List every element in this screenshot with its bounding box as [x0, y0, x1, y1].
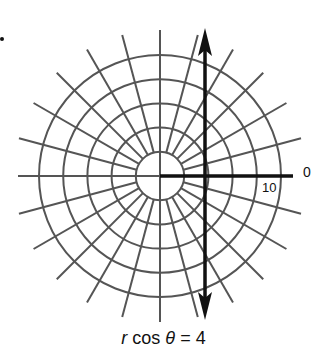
- grid-radial-line: [177, 193, 263, 279]
- grid-radial-line: [166, 35, 198, 153]
- grid-radial-line: [183, 138, 301, 170]
- caption-rest: = 4: [175, 328, 206, 348]
- grid-radial-line: [57, 193, 143, 279]
- radius-ten-label: 10: [262, 180, 276, 195]
- grid-radial-line: [19, 138, 137, 170]
- grid-radial-line: [183, 182, 301, 214]
- caption-cos: cos: [127, 328, 165, 348]
- polar-grid-figure: [0, 0, 327, 356]
- equation-caption: r cos θ = 4: [0, 328, 327, 349]
- angle-zero-label: 0: [303, 164, 311, 180]
- grid-radial-line: [177, 73, 263, 159]
- grid-radial-line: [122, 199, 154, 317]
- caption-theta: θ: [165, 328, 175, 348]
- grid-radial-line: [166, 199, 198, 317]
- grid-radial-line: [19, 182, 137, 214]
- grid-radial-line: [122, 35, 154, 153]
- grid-radial-line: [57, 73, 143, 159]
